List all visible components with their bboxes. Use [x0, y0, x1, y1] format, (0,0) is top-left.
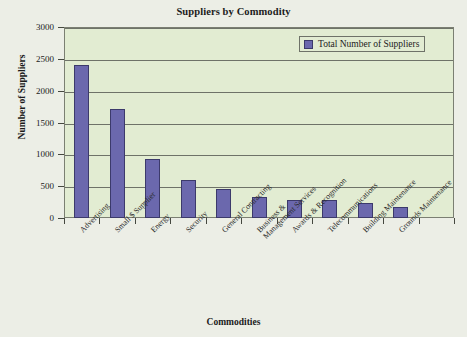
gridline — [65, 60, 453, 61]
legend-swatch-icon — [304, 40, 313, 49]
y-tick-label: 500 — [41, 181, 55, 191]
chart-legend: Total Number of Suppliers — [299, 36, 425, 52]
legend-label: Total Number of Suppliers — [318, 39, 419, 49]
gridline — [65, 155, 453, 156]
gridline — [65, 28, 453, 29]
y-tick-mark — [58, 59, 64, 60]
y-tick-label: 2500 — [36, 54, 54, 64]
y-tick-mark — [58, 27, 64, 28]
gridline — [65, 124, 453, 125]
y-tick-label: 2000 — [36, 86, 54, 96]
y-tick-mark — [58, 91, 64, 92]
suppliers-by-commodity-chart: Suppliers by Commodity Number of Supplie… — [0, 0, 467, 337]
chart-title: Suppliers by Commodity — [0, 6, 467, 17]
y-tick-mark — [58, 154, 64, 155]
y-tick-label: 1500 — [36, 118, 54, 128]
y-tick-mark — [58, 123, 64, 124]
y-tick-mark — [58, 186, 64, 187]
y-axis: 050010001500200025003000 — [0, 27, 64, 218]
x-axis-labels: AdvertisingSmall $ SupplierEnergySecurit… — [0, 218, 467, 313]
x-axis-title: Commodities — [0, 317, 467, 327]
y-tick-label: 1000 — [36, 149, 54, 159]
y-tick-label: 3000 — [36, 22, 54, 32]
gridline — [65, 92, 453, 93]
